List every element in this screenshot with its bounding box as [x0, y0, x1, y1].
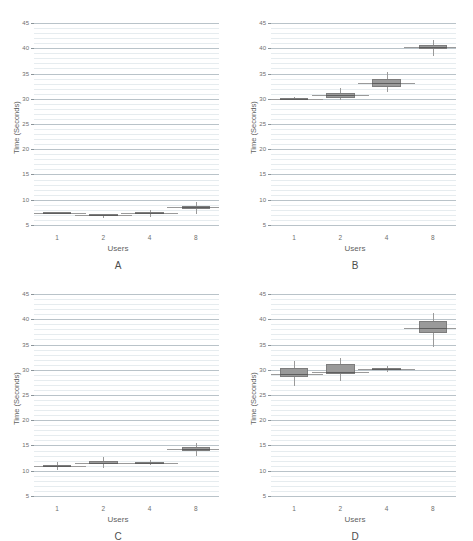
y-axis-tick-mark: [268, 319, 271, 320]
y-axis-tick-mark: [31, 445, 34, 446]
y-axis-tick-mark: [31, 23, 34, 24]
gridline-major: [271, 395, 456, 396]
median-line: [43, 466, 72, 467]
gridline-minor: [34, 63, 219, 64]
gridline-minor: [34, 304, 219, 305]
y-axis-tick-mark: [31, 48, 34, 49]
gridline-minor: [271, 339, 456, 340]
gridline-minor: [34, 180, 219, 181]
gridline-minor: [34, 410, 219, 411]
gridline-major: [271, 200, 456, 201]
gridline-minor: [271, 299, 456, 300]
gridline-major: [34, 395, 219, 396]
gridline-minor: [271, 334, 456, 335]
gridline-minor: [34, 425, 219, 426]
y-axis-tick-label: 40: [13, 45, 29, 51]
gridline-major: [34, 345, 219, 346]
y-axis-tick-mark: [31, 370, 34, 371]
panel-d: 510152025303540451248UsersTime (Seconds)…: [237, 271, 473, 541]
y-axis-tick-label: 45: [13, 291, 29, 297]
median-line: [419, 328, 448, 329]
gridline-minor: [271, 53, 456, 54]
x-axis-tick-label: 2: [93, 234, 113, 241]
median-line: [280, 99, 309, 100]
median-line: [182, 449, 211, 450]
y-axis-tick-label: 15: [13, 442, 29, 448]
gridline-minor: [34, 435, 219, 436]
gridline-minor: [34, 144, 219, 145]
gridline-minor: [34, 339, 219, 340]
gridline-minor: [271, 210, 456, 211]
y-axis-tick-mark: [268, 496, 271, 497]
gridline-minor: [34, 491, 219, 492]
y-axis-tick-label: 15: [250, 442, 266, 448]
whisker-lower: [103, 216, 104, 218]
panel-letter-c: C: [0, 531, 236, 541]
gridline-minor: [34, 334, 219, 335]
gridline-major: [271, 420, 456, 421]
whisker-upper: [294, 361, 295, 368]
gridline-minor: [34, 185, 219, 186]
gridline-minor: [34, 154, 219, 155]
y-axis-tick-label: 40: [250, 316, 266, 322]
gridline-minor: [34, 476, 219, 477]
y-axis-tick-mark: [31, 345, 34, 346]
x-axis-tick-label: 1: [47, 234, 67, 241]
gridline-minor: [271, 385, 456, 386]
gridline-minor: [271, 28, 456, 29]
y-axis-tick-mark: [268, 99, 271, 100]
median-line: [326, 372, 355, 373]
gridline-major: [34, 225, 219, 226]
gridline-major: [34, 149, 219, 150]
y-axis-label: Time (Seconds): [12, 101, 21, 154]
gridline-minor: [34, 440, 219, 441]
plot-area: [271, 18, 456, 230]
x-axis-tick-label: 4: [377, 234, 397, 241]
y-axis-tick-label: 45: [250, 291, 266, 297]
gridline-major: [271, 345, 456, 346]
gridline-minor: [271, 355, 456, 356]
whisker-upper: [387, 72, 388, 79]
y-axis-tick-mark: [31, 174, 34, 175]
whisker-lower: [340, 98, 341, 100]
median-line: [372, 83, 401, 84]
gridline-minor: [271, 84, 456, 85]
plot-area: [34, 289, 219, 501]
x-axis-tick-label: 1: [47, 505, 67, 512]
x-axis-tick-label: 4: [140, 505, 160, 512]
gridline-minor: [271, 159, 456, 160]
y-axis-tick-mark: [268, 149, 271, 150]
y-axis-tick-mark: [268, 23, 271, 24]
gridline-minor: [271, 476, 456, 477]
y-axis-label: Time (Seconds): [249, 101, 258, 154]
gridline-minor: [34, 461, 219, 462]
y-axis-label: Time (Seconds): [12, 372, 21, 425]
median-line: [43, 213, 72, 214]
gridline-minor: [271, 129, 456, 130]
gridline-minor: [34, 309, 219, 310]
y-axis-tick-mark: [268, 74, 271, 75]
gridline-major: [34, 124, 219, 125]
gridline-minor: [271, 466, 456, 467]
gridline-minor: [34, 451, 219, 452]
y-axis-tick-label: 35: [13, 342, 29, 348]
panel-b: 510152025303540451248UsersTime (Seconds)…: [237, 0, 473, 270]
gridline-minor: [34, 190, 219, 191]
gridline-minor: [271, 144, 456, 145]
gridline-minor: [34, 350, 219, 351]
gridline-minor: [34, 159, 219, 160]
gridline-major: [271, 149, 456, 150]
y-axis-tick-label: 40: [250, 45, 266, 51]
x-axis-label: Users: [237, 515, 473, 524]
gridline-minor: [34, 486, 219, 487]
whisker-lower: [387, 370, 388, 371]
gridline-major: [271, 471, 456, 472]
gridline-major: [271, 496, 456, 497]
gridline-major: [34, 23, 219, 24]
y-axis-tick-label: 35: [13, 71, 29, 77]
y-axis-tick-mark: [268, 48, 271, 49]
gridline-minor: [271, 430, 456, 431]
gridline-minor: [271, 410, 456, 411]
median-line: [182, 207, 211, 208]
y-axis-tick-label: 10: [13, 197, 29, 203]
